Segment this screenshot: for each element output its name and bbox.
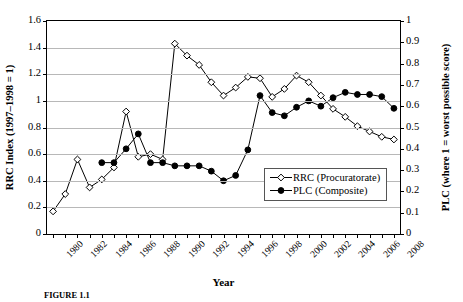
legend-item: RRC (Procuratorate) (269, 171, 380, 184)
open-diamond-icon (269, 171, 293, 184)
x-axis-tick (284, 234, 285, 238)
gridline (47, 154, 400, 155)
x-axis-tick (114, 234, 115, 238)
x-axis-tick (297, 234, 298, 238)
data-point (318, 103, 324, 109)
x-axis-tick (53, 234, 54, 238)
x-axis-tick-label: 1994 (234, 238, 255, 259)
x-axis-tick (187, 234, 188, 238)
x-axis-tick (65, 234, 66, 238)
x-axis-tick (224, 234, 225, 238)
y-axis-left-title: RRC Index (1997–1998 = 1) (2, 20, 18, 235)
x-axis-tick (333, 234, 334, 238)
data-point (123, 108, 130, 115)
gridline (47, 74, 400, 75)
x-axis-tick (236, 234, 237, 238)
x-axis-tick-label: 2004 (356, 238, 377, 259)
data-point (294, 104, 300, 110)
x-axis-tick (138, 234, 139, 238)
y-axis-left-tick (43, 48, 47, 49)
y-axis-left-tick (43, 21, 47, 22)
data-point (208, 168, 214, 174)
y-axis-left-tick (43, 234, 47, 235)
figure-caption: FIGURE 1.1 (44, 290, 444, 300)
y-axis-left-tick (43, 207, 47, 208)
x-axis-tick-label: 1980 (64, 238, 85, 259)
x-axis-tick-label: 1996 (258, 238, 279, 259)
y-axis-right-tick-label: 0.8 (406, 58, 419, 69)
y-axis-right-tick (400, 191, 404, 192)
y-axis-right-tick-label: 0.4 (406, 143, 419, 154)
data-point (378, 133, 385, 140)
data-point (342, 89, 348, 95)
y-axis-left-tick-label: 1.6 (28, 15, 41, 26)
x-axis-tick-label: 1986 (137, 238, 158, 259)
x-axis-tick-label: 1998 (283, 238, 304, 259)
y-axis-right-tick-label: 0 (406, 228, 411, 239)
data-point (62, 191, 69, 198)
data-point (86, 184, 93, 191)
data-point (74, 156, 81, 163)
chart-legend: RRC (Procuratorate)PLC (Composite) (264, 168, 387, 201)
legend-label: RRC (Procuratorate) (293, 171, 380, 184)
y-axis-left-tick (43, 154, 47, 155)
data-point (148, 160, 154, 166)
y-axis-right-tick (400, 85, 404, 86)
y-axis-right-tick (400, 106, 404, 107)
data-point (379, 94, 385, 100)
x-axis-tick (382, 234, 383, 238)
y-axis-right-tick-label: 0.7 (406, 79, 419, 90)
y-axis-left-tick (43, 101, 47, 102)
data-point (257, 93, 263, 99)
y-axis-left-tick (43, 128, 47, 129)
gridline (47, 207, 400, 208)
y-axis-right-tick-label: 0.5 (406, 122, 419, 133)
gridline (47, 48, 400, 49)
x-axis-tick-label: 1982 (88, 238, 109, 259)
data-point (330, 95, 336, 101)
gridline (47, 128, 400, 129)
data-point (245, 147, 251, 153)
data-point (269, 93, 276, 100)
data-point (366, 128, 373, 135)
x-axis-tick-label: 1990 (185, 238, 206, 259)
y-axis-left-tick-label: 1.4 (28, 42, 41, 53)
figure: RRC Index (1997–1998 = 1) PLC (where 1 =… (0, 0, 463, 302)
data-point (184, 163, 190, 169)
y-axis-right-tick (400, 149, 404, 150)
x-axis-tick (102, 234, 103, 238)
x-axis-tick-label: 2000 (307, 238, 328, 259)
data-point (50, 208, 57, 215)
x-axis-tick-label: 1984 (112, 238, 133, 259)
y-axis-left-tick-label: 1.2 (28, 68, 41, 79)
y-axis-left-tick (43, 74, 47, 75)
x-axis-tick (357, 234, 358, 238)
x-axis-tick (90, 234, 91, 238)
data-point (257, 75, 264, 82)
y-axis-right-tick-label: 1 (406, 15, 411, 26)
y-axis-right-title-text: PLC (where 1 = worst possible score) (438, 20, 454, 235)
plot-area: 00.20.40.60.811.21.41.6 00.10.20.30.40.5… (46, 20, 401, 235)
y-axis-left-tick-label: 0.4 (28, 175, 41, 186)
y-axis-left-tick-label: 0.8 (28, 122, 41, 133)
x-axis-tick (211, 234, 212, 238)
y-axis-right-tick (400, 234, 404, 235)
legend-label: PLC (Composite) (293, 184, 367, 197)
data-point (123, 146, 129, 152)
x-axis-tick-label: 2002 (331, 238, 352, 259)
x-axis-tick-label: 1992 (210, 238, 231, 259)
filled-circle-icon (269, 184, 293, 197)
y-axis-right-tick (400, 128, 404, 129)
figure-number: FIGURE 1.1 (44, 290, 90, 300)
gridline (47, 101, 400, 102)
data-point (367, 92, 373, 98)
y-axis-right-tick-label: 0.3 (406, 164, 419, 175)
x-axis-tick (175, 234, 176, 238)
y-axis-right-tick (400, 42, 404, 43)
data-point (391, 105, 397, 111)
y-axis-right-tick (400, 64, 404, 65)
data-point (281, 113, 287, 119)
data-point (269, 110, 275, 116)
y-axis-right-tick (400, 213, 404, 214)
y-axis-left-title-text: RRC Index (1997–1998 = 1) (2, 20, 18, 235)
